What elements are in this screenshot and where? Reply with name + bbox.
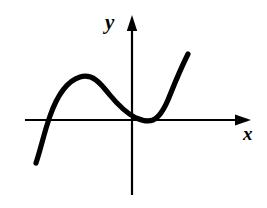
cubic-curve-path <box>36 54 188 163</box>
x-axis-label: x <box>243 124 253 143</box>
y-axis-arrowhead <box>127 15 137 31</box>
y-axis-label: y <box>105 12 114 33</box>
figure-canvas: y x <box>0 0 267 208</box>
curve-plot-svg <box>0 0 267 208</box>
